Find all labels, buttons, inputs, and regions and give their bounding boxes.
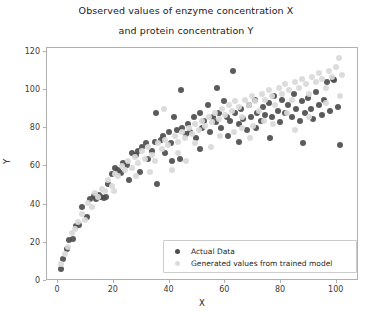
- data-point-gen: [247, 135, 253, 141]
- data-point-gen: [217, 133, 223, 139]
- data-point-gen: [122, 167, 128, 173]
- y-tick-mark: [43, 280, 46, 281]
- chart-title-line-2: and protein concentration Y: [0, 25, 372, 36]
- data-point-gen: [222, 112, 228, 118]
- data-point-gen: [89, 204, 95, 210]
- data-point-gen: [111, 188, 117, 194]
- data-point-gen: [209, 119, 215, 125]
- data-point-gen: [269, 93, 275, 99]
- y-tick-label: 40: [30, 199, 40, 208]
- data-point-gen: [261, 118, 267, 124]
- data-point-gen: [82, 217, 88, 223]
- data-point-actual: [285, 102, 291, 108]
- data-point-actual: [171, 114, 177, 120]
- data-point-gen: [323, 100, 329, 106]
- data-point-actual: [154, 181, 160, 187]
- data-point-actual: [335, 104, 341, 110]
- data-point-gen: [286, 87, 292, 93]
- data-point-gen: [231, 129, 237, 135]
- data-point-gen: [183, 158, 189, 164]
- data-point-actual: [230, 68, 236, 74]
- data-point-gen: [165, 142, 171, 148]
- data-point-actual: [279, 97, 285, 103]
- data-point-gen: [262, 97, 268, 103]
- data-point-gen: [306, 114, 312, 120]
- data-point-actual: [293, 106, 299, 112]
- scatter-plot-figure: Observed values of enzyme concentration …: [0, 0, 372, 318]
- data-point-gen: [58, 261, 64, 267]
- data-point-gen: [65, 244, 71, 250]
- data-point-actual: [319, 112, 325, 118]
- x-tick-mark: [336, 280, 337, 283]
- x-tick-mark: [113, 280, 114, 283]
- y-tick-label: 100: [25, 85, 40, 94]
- data-point-gen: [161, 106, 167, 112]
- data-point-gen: [270, 121, 276, 127]
- data-point-actual: [267, 135, 273, 141]
- y-tick-mark: [43, 89, 46, 90]
- legend-label-actual: Actual Data: [191, 247, 235, 256]
- data-point-actual: [248, 114, 254, 120]
- data-point-gen: [239, 125, 245, 131]
- data-point-gen: [115, 173, 121, 179]
- y-tick-mark: [43, 204, 46, 205]
- data-point-gen: [216, 116, 222, 122]
- data-point-gen: [129, 165, 135, 171]
- data-point-actual: [197, 146, 203, 152]
- data-point-actual: [300, 140, 306, 146]
- y-tick-mark: [43, 127, 46, 128]
- data-point-actual: [299, 98, 305, 104]
- data-point-gen: [133, 173, 139, 179]
- data-point-gen: [279, 91, 285, 97]
- data-point-gen: [229, 108, 235, 114]
- data-point-gen: [202, 123, 208, 129]
- data-point-actual: [275, 108, 281, 114]
- data-point-gen: [323, 85, 329, 91]
- data-point-actual: [177, 156, 183, 162]
- data-point-gen: [239, 114, 245, 120]
- data-point-gen: [189, 131, 195, 137]
- y-tick-label: 120: [25, 46, 40, 55]
- data-point-gen: [142, 156, 148, 162]
- data-point-gen: [182, 135, 188, 141]
- data-point-gen: [236, 104, 242, 110]
- y-tick-label: 20: [30, 237, 40, 246]
- data-point-actual: [269, 114, 275, 120]
- data-point-gen: [292, 127, 298, 133]
- data-point-gen: [252, 98, 258, 104]
- data-point-actual: [207, 129, 213, 135]
- data-point-actual: [153, 110, 159, 116]
- data-point-gen: [296, 85, 302, 91]
- data-point-gen: [159, 146, 165, 152]
- data-point-gen: [139, 148, 145, 154]
- legend-label-generated: Generated values from trained model: [191, 259, 332, 268]
- chart-legend: Actual Data Generated values from traine…: [163, 240, 357, 273]
- data-point-gen: [169, 167, 175, 173]
- data-point-actual: [178, 87, 184, 93]
- data-point-actual: [236, 139, 242, 145]
- y-tick-label: 0: [35, 276, 40, 285]
- data-point-gen: [62, 251, 68, 257]
- data-point-actual: [277, 119, 283, 125]
- data-point-gen: [333, 64, 339, 70]
- data-point-gen: [289, 97, 295, 103]
- legend-item-actual-data: Actual Data: [170, 245, 350, 257]
- x-tick-label: 60: [219, 285, 229, 294]
- x-tick-mark: [57, 280, 58, 283]
- y-axis-label: Y: [2, 159, 12, 164]
- data-point-gen: [256, 108, 262, 114]
- data-point-actual: [316, 102, 322, 108]
- x-tick-label: 0: [55, 285, 60, 294]
- data-point-gen: [135, 160, 141, 166]
- data-point-gen: [329, 74, 335, 80]
- data-point-gen: [95, 194, 101, 200]
- data-point-gen: [313, 79, 319, 85]
- data-point-gen: [147, 169, 153, 175]
- data-point-gen: [339, 72, 345, 78]
- data-point-actual: [103, 194, 109, 200]
- x-tick-label: 20: [108, 285, 118, 294]
- data-point-actual: [327, 108, 333, 114]
- data-point-actual: [166, 129, 172, 135]
- data-point-actual: [70, 236, 76, 242]
- data-point-gen: [306, 91, 312, 97]
